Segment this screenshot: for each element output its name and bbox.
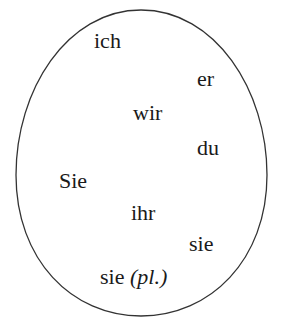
pronoun-sie-formal: Sie	[59, 170, 87, 192]
pronoun-sie-plural: sie (pl.)	[100, 266, 167, 288]
pronoun-ihr: ihr	[131, 202, 155, 224]
pronoun-du: du	[197, 137, 219, 159]
pronoun-wir: wir	[133, 102, 162, 124]
pronoun-sie-plural-text: sie	[100, 264, 124, 289]
pronoun-ich: ich	[94, 30, 121, 52]
pronoun-er: er	[197, 68, 214, 90]
pronoun-sie-singular: sie	[189, 233, 213, 255]
plural-annotation: (pl.)	[130, 264, 167, 289]
